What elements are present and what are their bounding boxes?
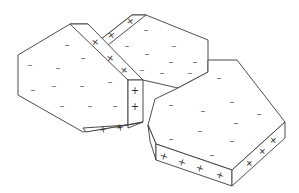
positive-charge: + [131, 85, 139, 96]
negative-charge: – [60, 101, 65, 111]
negative-charge: – [169, 57, 174, 67]
negative-charge: – [234, 118, 239, 128]
negative-charge: – [169, 100, 174, 110]
negative-charge: – [81, 53, 86, 63]
negative-charge: – [56, 63, 61, 73]
negative-charge: – [172, 41, 177, 51]
negative-charge: – [145, 49, 150, 59]
negative-charge: – [230, 97, 235, 107]
negative-charge: – [88, 101, 93, 111]
negative-charge: – [198, 126, 203, 136]
clay-plates-diagram: – – – – – – – – – – + + – – – – – [0, 0, 299, 193]
negative-charge: – [140, 65, 145, 75]
negative-charge: – [193, 57, 198, 67]
negative-charge: – [125, 41, 130, 51]
negative-charge: – [201, 106, 206, 116]
negative-charge: – [28, 60, 33, 70]
negative-charge: – [113, 101, 118, 111]
negative-charge: – [188, 68, 193, 78]
negative-charge: – [52, 81, 57, 91]
negative-charge: – [217, 73, 222, 83]
negative-charge: – [31, 85, 36, 95]
negative-charge: – [144, 25, 149, 35]
negative-charge: – [108, 77, 113, 87]
negative-charge: – [169, 134, 174, 144]
negative-charge: – [160, 68, 165, 78]
positive-charge: + [131, 101, 139, 112]
negative-charge: – [210, 150, 215, 160]
negative-charge: – [257, 109, 262, 119]
negative-charge: – [80, 81, 85, 91]
negative-charge: – [230, 136, 235, 146]
negative-charge: – [65, 40, 70, 50]
